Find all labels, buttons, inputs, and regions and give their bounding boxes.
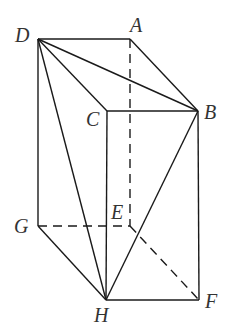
edge-BF — [198, 111, 199, 300]
vertex-label-f: F — [204, 290, 218, 312]
edge-DH — [38, 39, 106, 300]
dashed-edges — [38, 39, 199, 300]
vertex-label-a: A — [128, 14, 143, 36]
vertex-label-g: G — [14, 215, 29, 237]
vertex-label-c: C — [86, 108, 100, 130]
vertex-label-e: E — [110, 201, 123, 223]
edge-DC — [38, 39, 107, 111]
vertex-label-h: H — [93, 304, 110, 326]
edge-DB — [38, 39, 198, 111]
edge-CH — [106, 111, 107, 300]
edge-AB — [130, 39, 198, 111]
prism-diagram: DACBGEHF — [0, 0, 231, 336]
edge-EF — [130, 226, 199, 300]
vertex-label-d: D — [14, 24, 30, 46]
solid-edges — [38, 39, 199, 300]
vertex-label-b: B — [204, 101, 216, 123]
